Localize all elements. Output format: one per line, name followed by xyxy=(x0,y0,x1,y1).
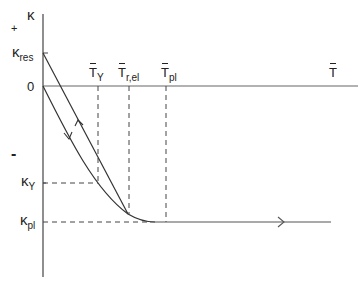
t-y-sub: Y xyxy=(97,72,104,83)
kappa-res-label: κres xyxy=(12,44,33,59)
t-pl-main: T xyxy=(161,66,169,79)
kappa-res-main: κ xyxy=(12,43,20,60)
kappa-y-label: κY xyxy=(21,173,35,188)
kappa-pl-label: κpl xyxy=(20,212,35,227)
kappa-pl-main: κ xyxy=(20,211,28,228)
t-y-main: T xyxy=(89,66,97,79)
arrow-up-icon xyxy=(75,120,83,126)
y-axis-label: κ xyxy=(27,7,35,22)
kappa-temperature-diagram xyxy=(0,0,364,291)
t-pl-label: Tpl xyxy=(161,66,177,79)
kappa-pl-sub: pl xyxy=(28,220,36,231)
t-y-label: TY xyxy=(89,66,104,79)
t-axis-label: T xyxy=(329,66,337,79)
kappa-y-sub: Y xyxy=(29,181,36,192)
diagram-canvas: κ + - 0 κres κY κpl TY Tr,el Tpl T xyxy=(0,0,364,291)
unloading-line xyxy=(43,53,128,214)
t-rel-label: Tr,el xyxy=(118,66,139,79)
t-rel-sub: r,el xyxy=(126,72,139,83)
t-pl-sub: pl xyxy=(169,72,177,83)
positive-sign: + xyxy=(11,23,17,34)
negative-sign: - xyxy=(11,146,16,162)
origin-label: 0 xyxy=(27,80,34,93)
t-axis-main: T xyxy=(329,66,337,79)
loading-curve xyxy=(43,86,155,222)
t-rel-main: T xyxy=(118,66,126,79)
kappa-y-main: κ xyxy=(21,172,29,189)
kappa-res-sub: res xyxy=(20,52,34,63)
